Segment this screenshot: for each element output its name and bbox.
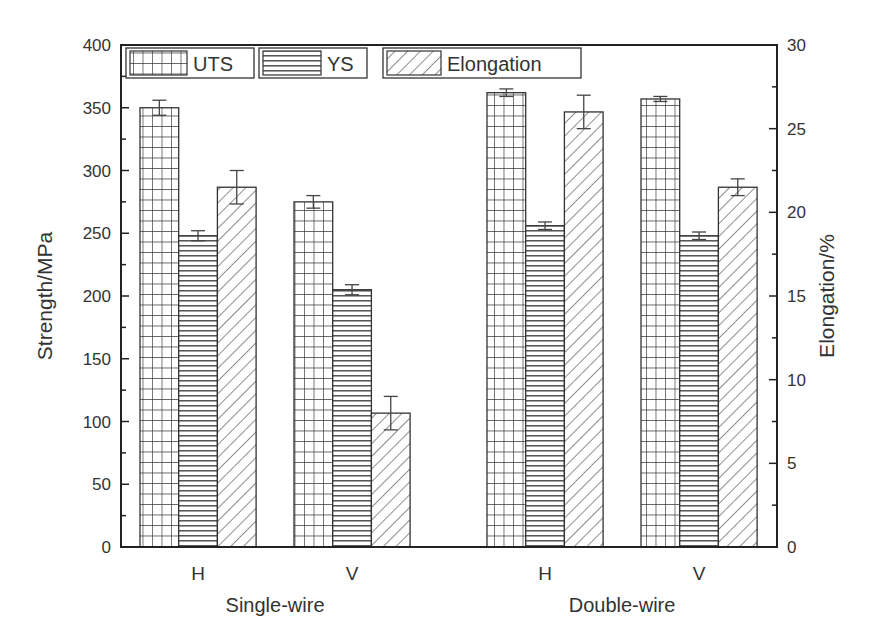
x-group-label: Single-wire	[226, 594, 325, 616]
legend-swatch	[130, 51, 187, 75]
left-y-axis: 050100150200250300350400	[83, 36, 129, 557]
left-y-tick-label: 50	[92, 475, 111, 494]
bar-uts-2	[487, 93, 526, 547]
chart-canvas: 050100150200250300350400 051015202530 HV…	[0, 0, 873, 644]
left-y-tick-label: 400	[83, 36, 111, 55]
left-y-tick-label: 300	[83, 162, 111, 181]
legend-item-uts: UTS	[126, 48, 254, 78]
left-y-tick-label: 200	[83, 287, 111, 306]
left-y-axis-title: Strength/MPa	[33, 231, 56, 360]
dual-axis-bar-chart: 050100150200250300350400 051015202530 HV…	[0, 0, 873, 644]
legend-label: YS	[327, 53, 354, 75]
bar-elongation-2	[564, 112, 603, 547]
left-y-tick-label: 150	[83, 350, 111, 369]
x-tick-label: V	[693, 563, 706, 584]
right-y-tick-label: 0	[787, 538, 796, 557]
legend-item-ys: YS	[259, 48, 367, 78]
bar-elongation-0	[217, 187, 256, 547]
bar-uts-3	[641, 99, 680, 547]
bar-uts-1	[294, 202, 333, 547]
left-y-tick-label: 350	[83, 99, 111, 118]
legend-label: UTS	[193, 53, 233, 75]
bar-ys-3	[680, 236, 719, 547]
legend-swatch	[387, 51, 441, 75]
left-y-tick-label: 0	[102, 538, 111, 557]
x-group-label: Double-wire	[569, 594, 676, 616]
x-tick-label: H	[191, 563, 205, 584]
right-y-axis-title: Elongation/%	[815, 234, 838, 358]
bars-layer	[140, 93, 757, 547]
legend-item-elongation: Elongation	[383, 48, 581, 78]
right-y-tick-label: 15	[787, 287, 806, 306]
bar-uts-0	[140, 108, 179, 547]
bar-ys-1	[333, 290, 372, 547]
right-y-axis: 051015202530	[769, 36, 806, 557]
right-y-tick-label: 30	[787, 36, 806, 55]
right-y-tick-label: 25	[787, 120, 806, 139]
bar-elongation-1	[371, 413, 410, 547]
right-y-tick-label: 5	[787, 454, 796, 473]
bar-ys-2	[526, 226, 565, 547]
right-y-tick-label: 10	[787, 371, 806, 390]
legend-swatch	[263, 51, 321, 75]
bar-elongation-3	[718, 187, 757, 547]
bar-ys-0	[179, 236, 218, 547]
x-tick-label: H	[538, 563, 552, 584]
legend-label: Elongation	[447, 53, 542, 75]
legend: UTSYSElongation	[126, 48, 581, 78]
left-y-tick-label: 250	[83, 224, 111, 243]
left-y-tick-label: 100	[83, 413, 111, 432]
x-axis: HVHVSingle-wireDouble-wire	[191, 563, 706, 616]
right-y-tick-label: 20	[787, 203, 806, 222]
x-tick-label: V	[346, 563, 359, 584]
